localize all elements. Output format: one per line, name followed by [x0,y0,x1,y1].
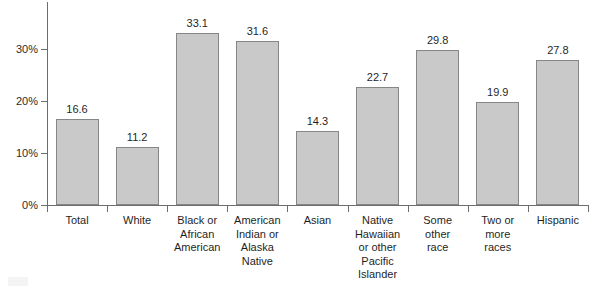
x-axis-tick [408,206,409,212]
x-axis-category-label-line: Pacific [348,255,408,269]
bar-chart: 0%10%20%30% 16.611.233.131.614.322.729.8… [0,0,604,292]
x-axis-category-label-line: African [167,228,227,242]
bar [296,131,339,205]
scan-artifact [8,277,28,286]
bar [536,60,579,205]
x-axis-category-label-line: Hawaiian [348,228,408,242]
x-axis-category-label-line: Islander [348,268,408,282]
x-axis-category-label: Asian [287,214,347,228]
x-axis-tick [227,206,228,212]
y-axis-tick [41,153,48,154]
bar [356,87,399,205]
x-axis-tick [588,206,589,212]
bar-value-label: 14.3 [287,116,347,127]
x-axis-category-label-line: Hispanic [528,214,588,228]
bar-value-label: 27.8 [528,45,588,56]
x-axis-category-label-line: or other [348,241,408,255]
x-axis-category-label-line: other [408,228,468,242]
x-axis-category-label: Black orAfricanAmerican [167,214,227,255]
bar [236,41,279,205]
x-axis-tick [107,206,108,212]
x-axis-category-label: Someotherrace [408,214,468,255]
x-axis-tick [528,206,529,212]
x-axis-category-label: Total [47,214,107,228]
x-axis-category-label: Two ormoreraces [468,214,528,255]
x-axis-tick [287,206,288,212]
bar-value-label: 11.2 [107,132,167,143]
x-axis-category-label-line: Native [348,214,408,228]
x-axis-tick [348,206,349,212]
bar-value-label: 22.7 [348,72,408,83]
bar [176,33,219,205]
y-axis-tick-label: 0% [0,200,38,211]
x-axis-category-label-line: Total [47,214,107,228]
x-axis-category-label: White [107,214,167,228]
x-axis-category-label-line: American [167,241,227,255]
x-axis-category-label: NativeHawaiianor otherPacificIslander [348,214,408,282]
x-axis-category-label: Hispanic [528,214,588,228]
x-axis-tick [468,206,469,212]
y-axis-tick [41,49,48,50]
x-axis-tick [47,206,48,212]
x-axis-line [47,205,589,206]
bar [116,147,159,205]
bar-value-label: 33.1 [167,18,227,29]
x-axis-tick [167,206,168,212]
bar-value-label: 16.6 [47,104,107,115]
bar [416,50,459,205]
bar [476,102,519,205]
x-axis-category-label-line: races [468,241,528,255]
bar-value-label: 29.8 [408,35,468,46]
x-axis-category-label-line: Two or [468,214,528,228]
x-axis-category-label-line: Black or [167,214,227,228]
x-axis-category-label-line: race [408,241,468,255]
x-axis-category-label-line: Some [408,214,468,228]
x-axis-category-label-line: Alaska [227,241,287,255]
x-axis-category-label-line: Asian [287,214,347,228]
y-axis-tick-label: 20% [0,96,38,107]
y-axis-tick-label: 10% [0,148,38,159]
x-axis-category-label-line: White [107,214,167,228]
bar-value-label: 19.9 [468,87,528,98]
x-axis-category-label-line: Indian or [227,228,287,242]
x-axis-category-label-line: American [227,214,287,228]
y-axis-tick-label: 30% [0,44,38,55]
x-axis-category-label: AmericanIndian orAlaskaNative [227,214,287,268]
bar-value-label: 31.6 [227,26,287,37]
x-axis-category-label-line: more [468,228,528,242]
y-axis-tick [41,101,48,102]
x-axis-category-label-line: Native [227,255,287,269]
bar [56,119,99,205]
